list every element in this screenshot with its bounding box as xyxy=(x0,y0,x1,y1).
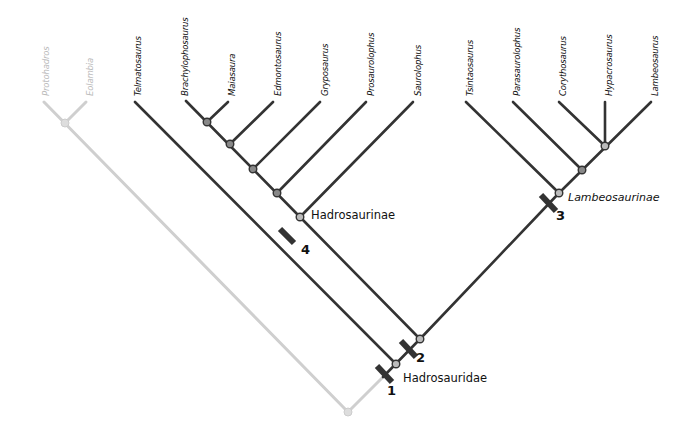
taxon-tsintaosaurus: Tsintaosaurus xyxy=(464,40,475,96)
marker-1: 1 xyxy=(387,383,396,398)
taxon-brachylophosaurus: Brachylophosaurus xyxy=(179,17,190,96)
taxon-eolambia: Eolambia xyxy=(84,58,95,96)
clade-label-lambeosaurinae: Lambeosaurinae xyxy=(568,191,660,204)
taxon-corythosaurus: Corythosaurus xyxy=(557,36,568,96)
taxon-hypacrosaurus: Hypacrosaurus xyxy=(603,35,614,96)
clade-label-hadrosaurinae: Hadrosaurinae xyxy=(311,208,395,222)
taxon-lambeosaurus: Lambeosaurus xyxy=(649,36,660,96)
taxon-telmatosaurus: Telmatosaurus xyxy=(132,36,143,96)
taxon-parasaurolophus: Parasaurolophus xyxy=(511,28,522,96)
taxon-saurolophus: Saurolophus xyxy=(412,45,423,96)
marker-2: 2 xyxy=(416,350,425,365)
taxon-maiasaura: Maiasaura xyxy=(226,54,237,96)
taxon-prosaurolophus: Prosaurolophus xyxy=(365,33,376,96)
taxon-gryposaurus: Gryposaurus xyxy=(319,44,330,96)
clade-label-hadrosauridae: Hadrosauridae xyxy=(403,371,487,385)
taxon-protohadros: Protohadros xyxy=(40,46,51,96)
taxon-edmontosaurus: Edmontosaurus xyxy=(272,32,283,96)
marker-3: 3 xyxy=(556,208,565,223)
marker-4: 4 xyxy=(301,242,310,257)
